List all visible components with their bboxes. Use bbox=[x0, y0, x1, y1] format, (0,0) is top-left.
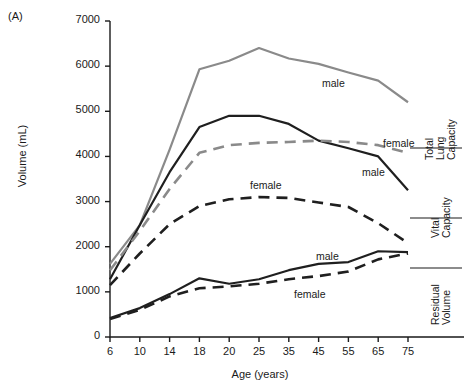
x-tick-label: 14 bbox=[157, 345, 183, 357]
total-lung-capacity-label: TotalLungCapacity bbox=[424, 119, 457, 160]
y-tick-label: 4000 bbox=[58, 148, 100, 160]
y-tick-label: 2000 bbox=[58, 239, 100, 251]
y-tick-label: 3000 bbox=[58, 194, 100, 206]
group-label-line: Capacity bbox=[446, 119, 457, 160]
x-tick-label: 45 bbox=[306, 345, 332, 357]
y-tick-label: 0 bbox=[58, 329, 100, 341]
series-line-0 bbox=[110, 48, 408, 264]
x-tick-label: 18 bbox=[186, 345, 212, 357]
chart-figure: (A) Volume (mL) Age (years) 010002000300… bbox=[0, 0, 475, 391]
x-tick-label: 6 bbox=[97, 345, 123, 357]
tlc-male-label: male bbox=[322, 77, 345, 89]
y-tick-label: 5000 bbox=[58, 103, 100, 115]
y-tick-label: 1000 bbox=[58, 284, 100, 296]
group-label-line: Capacity bbox=[441, 197, 452, 238]
vc-female-label: female bbox=[250, 179, 282, 191]
y-tick-label: 7000 bbox=[58, 13, 100, 25]
x-tick-label: 25 bbox=[246, 345, 272, 357]
x-tick-label: 65 bbox=[365, 345, 391, 357]
rv-female-label: female bbox=[294, 288, 326, 300]
y-axis-title: Volume (mL) bbox=[16, 96, 28, 216]
vital-capacity-label: VitalCapacity bbox=[430, 197, 452, 238]
residual-volume-label: ResidualVolume bbox=[430, 284, 452, 325]
rv-male-label: male bbox=[316, 250, 339, 262]
x-tick-label: 55 bbox=[335, 345, 361, 357]
series-line-5 bbox=[110, 253, 408, 318]
x-tick-label: 10 bbox=[127, 345, 153, 357]
x-tick-label: 35 bbox=[276, 345, 302, 357]
group-label-line: Volume bbox=[441, 284, 452, 325]
vc-male-label: male bbox=[362, 166, 385, 178]
tlc-female-label: female bbox=[383, 137, 415, 149]
series-line-2 bbox=[110, 141, 408, 271]
x-tick-label: 75 bbox=[395, 345, 421, 357]
axis-spine bbox=[110, 21, 464, 337]
y-tick-label: 6000 bbox=[58, 58, 100, 70]
x-axis-title: Age (years) bbox=[100, 368, 420, 380]
x-tick-label: 20 bbox=[216, 345, 242, 357]
